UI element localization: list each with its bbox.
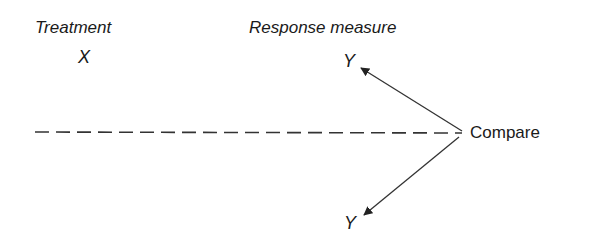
arrow-to-y-bottom [364,137,459,215]
diagram-connectors [0,0,592,241]
dashed-comparison-line [35,132,462,133]
arrow-to-y-top [361,68,462,131]
